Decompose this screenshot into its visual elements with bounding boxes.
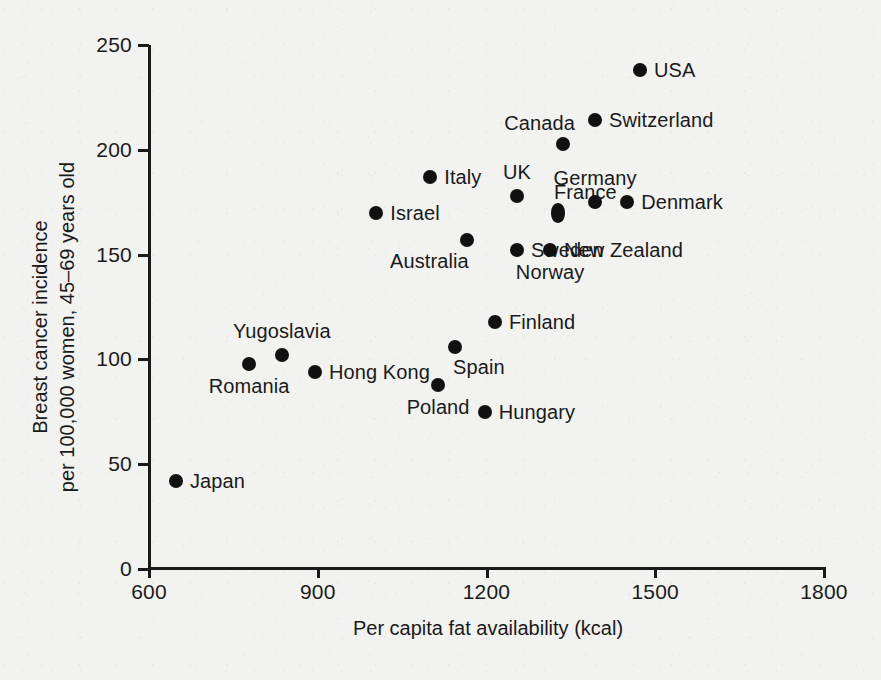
point-label-australia: Australia <box>390 249 469 272</box>
point-label-norway: Norway <box>516 261 584 284</box>
x-tick-label-1500: 1500 <box>631 580 679 604</box>
point-label-romania: Romania <box>209 375 290 398</box>
data-point-switzerland <box>588 113 602 127</box>
data-point-sweden <box>510 243 524 257</box>
x-tick-label-1800: 1800 <box>800 580 848 604</box>
y-tick-label-150: 150 <box>96 243 132 267</box>
y-tick-label-100: 100 <box>96 347 132 371</box>
point-label-yugoslavia: Yugoslavia <box>233 320 331 343</box>
y-tick-100 <box>138 358 149 361</box>
data-point-israel <box>369 206 383 220</box>
y-tick-label-50: 50 <box>108 452 132 476</box>
x-tick-1200 <box>486 567 489 578</box>
point-label-uk: UK <box>503 161 531 184</box>
data-point-australia <box>460 233 474 247</box>
point-label-finland: Finland <box>509 310 575 333</box>
point-label-germany: Germany <box>554 167 637 190</box>
data-point-canada <box>556 137 570 151</box>
y-axis-title-line-2: per 100,000 women, 45–69 years old <box>54 67 81 587</box>
x-tick-label-900: 900 <box>300 580 336 604</box>
y-tick-150 <box>138 254 149 257</box>
data-point-denmark <box>620 195 634 209</box>
data-point-usa <box>633 63 647 77</box>
point-label-usa: USA <box>654 59 695 82</box>
point-label-canada: Canada <box>504 111 575 134</box>
data-point-spain <box>448 340 462 354</box>
data-point-poland <box>431 378 445 392</box>
data-point-japan <box>169 474 183 488</box>
point-label-spain: Spain <box>453 355 505 378</box>
point-label-japan: Japan <box>190 469 245 492</box>
point-label-switzerland: Switzerland <box>609 109 713 132</box>
data-point-yugoslavia <box>275 348 289 362</box>
data-point-italy <box>423 170 437 184</box>
x-tick-label-1200: 1200 <box>463 580 511 604</box>
point-label-hong-kong: Hong Kong <box>329 360 430 383</box>
point-label-denmark: Denmark <box>641 191 723 214</box>
scatter-chart-figure: 050100150200250 600900120015001800 Japan… <box>0 0 881 680</box>
x-tick-label-600: 600 <box>131 580 167 604</box>
data-point-uk <box>510 189 524 203</box>
data-point-romania <box>242 357 256 371</box>
x-tick-1800 <box>823 567 826 578</box>
y-tick-250 <box>138 44 149 47</box>
plot-area: 050100150200250 600900120015001800 Japan… <box>0 0 881 680</box>
data-point-finland <box>488 315 502 329</box>
x-tick-1500 <box>654 567 657 578</box>
y-axis-line <box>148 45 151 570</box>
y-tick-50 <box>138 463 149 466</box>
data-point-germany <box>588 195 602 209</box>
point-label-hungary: Hungary <box>499 400 575 423</box>
x-axis-title: Per capita fat availability (kcal) <box>148 617 828 640</box>
data-point-france <box>551 203 565 223</box>
x-tick-900 <box>317 567 320 578</box>
y-axis-title: Breast cancer incidence per 100,000 wome… <box>27 67 81 587</box>
y-tick-label-250: 250 <box>96 33 132 57</box>
point-label-poland: Poland <box>407 396 470 419</box>
data-point-hong-kong <box>308 365 322 379</box>
y-axis-title-line-1: Breast cancer incidence <box>27 67 54 587</box>
data-point-hungary <box>478 405 492 419</box>
point-label-italy: Italy <box>444 166 481 189</box>
y-tick-label-0: 0 <box>120 557 132 581</box>
point-label-israel: Israel <box>390 201 440 224</box>
y-tick-label-200: 200 <box>96 138 132 162</box>
x-tick-600 <box>148 567 151 578</box>
point-label-new-zealand: New Zealand <box>564 239 683 262</box>
y-tick-200 <box>138 149 149 152</box>
